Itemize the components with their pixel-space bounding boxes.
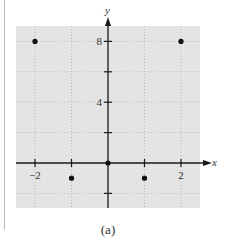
svg-text:8: 8 [97,35,103,47]
figure-caption: (a) [0,222,216,238]
x-axis-label: x [211,156,217,168]
svg-text:4: 4 [97,96,103,108]
y-axis-label: y [104,4,110,16]
svg-text:2: 2 [178,169,184,181]
svg-text:−2: −2 [29,169,41,181]
scatter-chart: −2248 x y [0,0,229,249]
